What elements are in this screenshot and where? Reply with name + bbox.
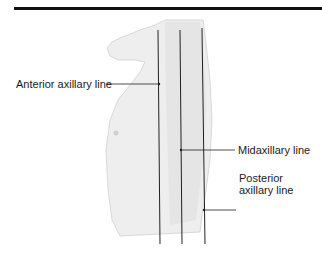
- torso-illustration: [0, 0, 322, 255]
- label-anterior-axillary-line: Anterior axillary line: [16, 78, 112, 90]
- label-midaxillary-line: Midaxillary line: [238, 144, 310, 156]
- anterior-dot: [158, 83, 160, 85]
- nipple-mark: [114, 131, 119, 136]
- midaxillary-dot: [180, 149, 182, 151]
- posterior-dot: [203, 209, 205, 211]
- label-posterior-line2: axillary line: [239, 184, 293, 196]
- label-posterior-line1: Posterior: [239, 172, 283, 184]
